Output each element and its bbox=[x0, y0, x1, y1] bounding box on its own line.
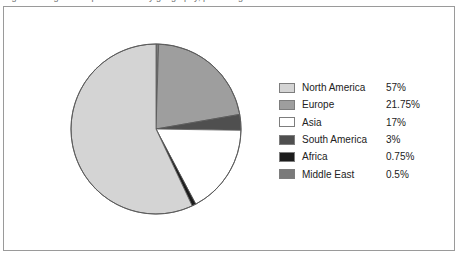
legend-label: South America bbox=[302, 134, 386, 145]
legend-row[interactable]: Europe21.75% bbox=[279, 96, 444, 113]
legend-row[interactable]: Asia17% bbox=[279, 114, 444, 131]
legend-row[interactable]: South America3% bbox=[279, 131, 444, 148]
legend-color-swatch bbox=[279, 152, 295, 162]
legend-color-swatch bbox=[279, 100, 295, 110]
figure-caption-text: Figure 1: Regional shipment share by geo… bbox=[0, 0, 463, 3]
legend-color-swatch bbox=[279, 135, 295, 145]
legend-value: 0.75% bbox=[386, 151, 414, 162]
legend-color-swatch bbox=[279, 169, 295, 179]
pie-slice-group bbox=[71, 44, 241, 214]
legend-value: 0.5% bbox=[386, 169, 409, 180]
legend-label: North America bbox=[302, 82, 386, 93]
figure-caption-clipped: Figure 1: Regional shipment share by geo… bbox=[0, 0, 463, 3]
legend-row[interactable]: Africa0.75% bbox=[279, 148, 444, 165]
legend-value: 57% bbox=[386, 82, 406, 93]
legend-label: Africa bbox=[302, 151, 386, 162]
legend-label: Asia bbox=[302, 117, 386, 128]
legend-row[interactable]: Middle East0.5% bbox=[279, 165, 444, 182]
legend-label: Middle East bbox=[302, 169, 386, 180]
legend-value: 17% bbox=[386, 117, 406, 128]
legend-value: 3% bbox=[386, 134, 400, 145]
chart-frame: North America57%Europe21.75%Asia17%South… bbox=[3, 6, 455, 251]
pie-chart bbox=[68, 41, 244, 217]
legend-color-swatch bbox=[279, 117, 295, 127]
pie-chart-svg bbox=[68, 41, 244, 217]
legend-value: 21.75% bbox=[386, 99, 420, 110]
legend-label: Europe bbox=[302, 99, 386, 110]
chart-legend: North America57%Europe21.75%Asia17%South… bbox=[279, 79, 444, 183]
legend-color-swatch bbox=[279, 83, 295, 93]
legend-row[interactable]: North America57% bbox=[279, 79, 444, 96]
